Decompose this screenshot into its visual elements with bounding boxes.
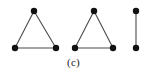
graph-edge bbox=[94, 11, 113, 48]
graph-node bbox=[72, 45, 78, 51]
graph-node bbox=[110, 45, 116, 51]
figure-container: (c) bbox=[0, 0, 147, 77]
graph-node bbox=[133, 8, 139, 14]
graph-edge bbox=[15, 11, 34, 48]
nodes-group bbox=[12, 8, 139, 51]
graph-node bbox=[53, 45, 59, 51]
figure-caption-row: (c) bbox=[0, 55, 147, 69]
graph-edge bbox=[34, 11, 56, 48]
graph-edge bbox=[75, 11, 94, 48]
graph-node bbox=[12, 45, 18, 51]
graph-node bbox=[133, 45, 139, 51]
graph-node bbox=[31, 8, 37, 14]
graph-node bbox=[91, 8, 97, 14]
figure-caption: (c) bbox=[67, 56, 80, 68]
edges-group bbox=[15, 11, 136, 48]
